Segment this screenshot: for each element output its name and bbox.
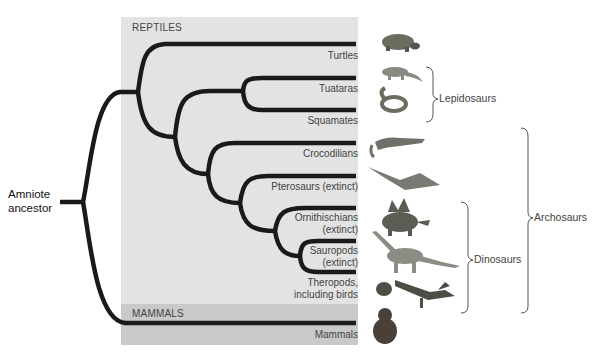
pterosaur-icon: [368, 167, 440, 190]
crocodile-icon: [371, 138, 425, 158]
snake-icon: [382, 88, 407, 111]
turtle-icon: [382, 34, 420, 52]
phylogeny-diagram: REPTILES MAMMALS: [0, 0, 601, 358]
animal-illustrations: [0, 0, 601, 358]
theropod-and-bird-icon: [376, 280, 455, 308]
chimpanzee-icon: [373, 308, 397, 344]
stegosaurus-icon: [382, 198, 430, 236]
sauropod-icon: [372, 231, 460, 273]
tuatara-icon: [382, 67, 423, 82]
